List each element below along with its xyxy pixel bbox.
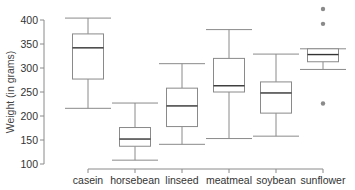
- y-axis: 100150200250300350400: [20, 14, 44, 170]
- x-axis: caseinhorsebeanlinseedmeatmealsoybeansun…: [73, 169, 346, 186]
- y-tick-label: 350: [20, 38, 38, 50]
- boxes: [65, 7, 346, 160]
- x-tick-label: soybean: [256, 174, 296, 186]
- iqr-box: [120, 128, 151, 147]
- y-tick-label: 300: [20, 62, 38, 74]
- outlier-point: [321, 22, 325, 26]
- x-tick-label: sunflower: [301, 174, 346, 186]
- x-tick-label: linseed: [165, 174, 198, 186]
- y-tick-label: 400: [20, 14, 38, 26]
- x-tick-label: meatmeal: [206, 174, 252, 186]
- iqr-box: [214, 58, 245, 92]
- iqr-box: [308, 49, 339, 62]
- box-soybean: [253, 54, 299, 136]
- box-linseed: [159, 64, 205, 145]
- outlier-point: [321, 7, 325, 11]
- iqr-box: [73, 34, 104, 79]
- x-tick-label: casein: [73, 174, 104, 186]
- box-sunflower: [300, 7, 346, 106]
- box-meatmeal: [206, 30, 252, 139]
- y-tick-label: 100: [20, 158, 38, 170]
- box-plot: Weight (in grams) 100150200250300350400 …: [0, 0, 355, 190]
- outlier-point: [321, 101, 325, 105]
- y-tick-label: 150: [20, 134, 38, 146]
- x-tick-label: horsebean: [110, 174, 160, 186]
- y-axis-label: Weight (in grams): [4, 51, 16, 134]
- y-tick-label: 200: [20, 110, 38, 122]
- y-tick-label: 250: [20, 86, 38, 98]
- iqr-box: [261, 82, 292, 113]
- box-horsebean: [112, 103, 158, 160]
- iqr-box: [167, 88, 198, 126]
- box-casein: [65, 18, 111, 108]
